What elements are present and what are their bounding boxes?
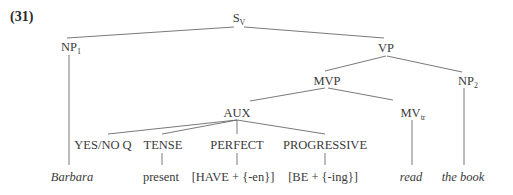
node-tense: TENSE bbox=[144, 138, 183, 152]
leaf-have-en: [HAVE + {-en}] bbox=[192, 170, 275, 184]
node-aux: AUX bbox=[223, 106, 250, 120]
example-number: (31) bbox=[10, 9, 34, 25]
edge-vp-np2 bbox=[387, 56, 462, 72]
edge-mvp-aux bbox=[250, 88, 325, 101]
leaf-read: read bbox=[400, 170, 423, 184]
node-progressive: PROGRESSIVE bbox=[283, 138, 367, 152]
node-vp: VP bbox=[378, 41, 394, 55]
node-s: SV bbox=[233, 11, 246, 27]
edge-aux-progressive bbox=[237, 120, 325, 134]
node-yesno-q: YES/NO Q bbox=[74, 138, 131, 152]
edge-vp-mvp bbox=[325, 56, 386, 71]
node-perfect: PERFECT bbox=[210, 138, 264, 152]
node-mvp: MVP bbox=[313, 74, 340, 88]
edge-mvp-mv bbox=[328, 88, 393, 100]
node-np1: NP1 bbox=[61, 40, 81, 56]
syntax-tree-diagram: (31) SV NP1 VP MVP NP2 AUX MVtr YES/NO Q… bbox=[0, 0, 513, 195]
leaf-the-book: the book bbox=[442, 170, 485, 184]
edge-s-np1 bbox=[67, 27, 234, 38]
edge-s-vp bbox=[244, 27, 384, 38]
node-mv: MVtr bbox=[400, 106, 425, 122]
node-np2: NP2 bbox=[458, 74, 478, 90]
leaf-be-ing: [BE + {-ing}] bbox=[288, 170, 358, 184]
leaf-present: present bbox=[143, 170, 180, 184]
leaf-barbara: Barbara bbox=[51, 170, 93, 184]
